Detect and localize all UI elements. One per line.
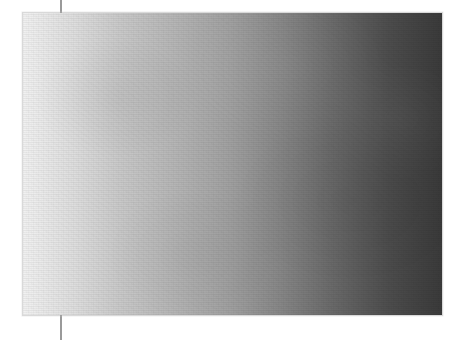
image-canvas <box>0 0 465 340</box>
gradient-fill <box>23 13 442 315</box>
gradient-swatch <box>22 12 443 316</box>
